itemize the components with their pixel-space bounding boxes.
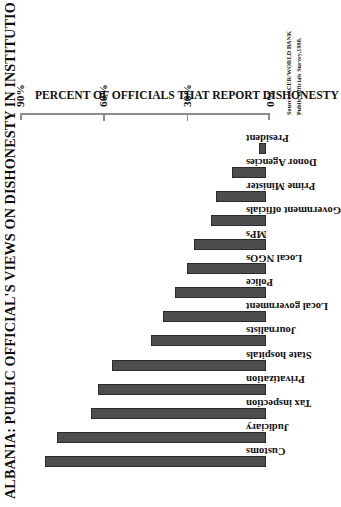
bar <box>187 263 266 274</box>
category-label: Local government <box>246 301 328 312</box>
category-label: Customs <box>246 446 285 457</box>
axis-cap-top <box>20 113 22 120</box>
value-axis: 0%30%60%90% <box>20 113 270 115</box>
category-label: State hospitals <box>246 350 312 361</box>
axis-tick-label: 90% <box>14 84 26 107</box>
source-note-line-2: Public Officials Survey,1998. <box>294 31 304 115</box>
category-label: Journalists <box>246 326 296 337</box>
bar <box>259 143 266 154</box>
category-label: Donor Agencies <box>246 157 317 168</box>
category-label: President <box>246 133 289 144</box>
bar <box>57 432 266 443</box>
bar <box>151 336 266 347</box>
bar <box>194 239 266 250</box>
bar <box>45 456 266 467</box>
category-label: Local NGOs <box>246 253 302 264</box>
plot-area <box>26 129 266 473</box>
bar <box>98 384 266 395</box>
category-label: Privatization <box>246 374 305 385</box>
category-label: Judiciary <box>246 422 289 433</box>
bar <box>232 167 266 178</box>
category-label: MPs <box>246 229 267 240</box>
axis-tick <box>187 113 189 121</box>
category-label: Police <box>246 277 273 288</box>
source-note-line-1: Source:ACER/WORLD BANK <box>284 31 294 115</box>
category-label: Prime Minister <box>246 181 315 192</box>
category-label: Government officials <box>246 205 341 216</box>
bar <box>163 311 266 322</box>
axis-cap-bottom <box>268 113 270 120</box>
bar <box>211 215 266 226</box>
source-note: Source:ACER/WORLD BANK Public Officials … <box>284 31 303 115</box>
bar <box>175 287 266 298</box>
bar <box>216 191 266 202</box>
axis-tick <box>103 113 105 121</box>
category-label: Tax inspection <box>246 398 311 409</box>
chart-title: ALBANIA: PUBLIC OFFICIAL'S VIEWS ON DISH… <box>2 0 19 499</box>
bar <box>112 360 266 371</box>
bar <box>91 408 266 419</box>
